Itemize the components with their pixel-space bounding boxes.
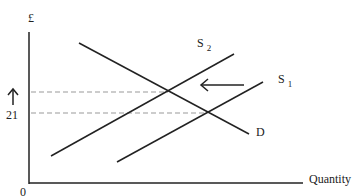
s2-label: S2	[197, 37, 211, 49]
s1-label: S1	[278, 73, 292, 85]
price-tick-label: 21	[6, 109, 18, 121]
demand-curve	[79, 43, 249, 134]
x-axis-label: Quantity	[309, 173, 351, 185]
shift-left-arrow	[201, 79, 244, 91]
supply-demand-diagram	[0, 0, 354, 196]
origin-label: 0	[20, 186, 26, 196]
d-label: D	[256, 126, 265, 138]
supply-curve-s1	[117, 82, 263, 162]
price-increase-arrow-icon	[8, 89, 18, 105]
y-axis-label: £	[28, 12, 34, 24]
supply-curve-s2	[51, 54, 234, 156]
